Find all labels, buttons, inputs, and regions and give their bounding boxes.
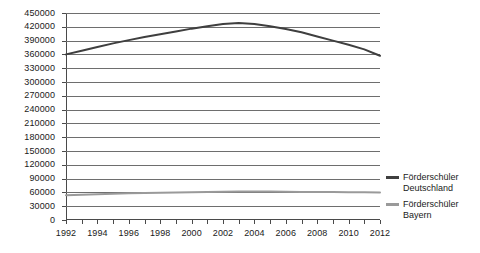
y-axis-tick-label: 390000 bbox=[24, 36, 55, 45]
legend-swatch-bayern bbox=[386, 203, 399, 206]
x-axis: 1992199419961998200020022004200620082010… bbox=[66, 220, 380, 250]
legend-item-bayern: Förderschüler Bayern bbox=[386, 199, 480, 221]
x-axis-tick bbox=[207, 220, 208, 224]
x-axis-tick bbox=[192, 220, 193, 224]
x-axis-tick-label: 2000 bbox=[181, 228, 201, 238]
x-axis-tick-label: 2012 bbox=[370, 228, 390, 238]
y-axis-tick-label: 0 bbox=[50, 216, 55, 225]
x-axis-tick bbox=[317, 220, 318, 224]
x-axis-tick bbox=[129, 220, 130, 224]
legend-label-bayern-line2: Bayern bbox=[403, 210, 432, 220]
x-axis-tick bbox=[239, 220, 240, 224]
x-axis-tick bbox=[286, 220, 287, 224]
legend-item-deutschland: Förderschüler Deutschland bbox=[386, 172, 480, 194]
x-axis-tick-label: 2002 bbox=[213, 228, 233, 238]
x-axis-tick-label: 2006 bbox=[276, 228, 296, 238]
x-axis-tick-label: 1992 bbox=[56, 228, 76, 238]
x-axis-tick-label: 2008 bbox=[307, 228, 327, 238]
x-axis-tick-label: 2010 bbox=[338, 228, 358, 238]
x-axis-tick bbox=[333, 220, 334, 224]
y-axis-tick-label: 240000 bbox=[24, 105, 55, 114]
y-axis-tick-label: 300000 bbox=[24, 78, 55, 87]
legend-label-bayern: Förderschüler Bayern bbox=[403, 199, 459, 221]
x-axis-tick bbox=[160, 220, 161, 224]
legend-label-bayern-line1: Förderschüler bbox=[403, 199, 459, 209]
y-axis-tick-label: 180000 bbox=[24, 133, 55, 142]
x-axis-tick bbox=[254, 220, 255, 224]
x-axis-tick bbox=[176, 220, 177, 224]
legend-label-deutschland-line1: Förderschüler bbox=[403, 172, 459, 182]
series-line-deutschland bbox=[66, 23, 380, 56]
x-axis-tick bbox=[380, 220, 381, 224]
x-axis-tick bbox=[97, 220, 98, 224]
y-axis-tick-label: 30000 bbox=[29, 202, 55, 211]
x-axis-tick-label: 1994 bbox=[87, 228, 107, 238]
x-axis-tick-label: 2004 bbox=[244, 228, 264, 238]
x-axis-tick-label: 1998 bbox=[150, 228, 170, 238]
legend-swatch-deutschland bbox=[386, 176, 399, 179]
data-series-lines bbox=[66, 13, 380, 220]
y-axis-labels: 4500004200003900003600003300003000002700… bbox=[0, 0, 62, 253]
x-axis-tick bbox=[113, 220, 114, 224]
y-axis-tick-label: 420000 bbox=[24, 22, 55, 31]
y-axis-tick-label: 450000 bbox=[24, 9, 55, 18]
x-axis-tick-label: 1996 bbox=[119, 228, 139, 238]
y-axis-tick-label: 150000 bbox=[24, 147, 55, 156]
y-axis-tick-label: 90000 bbox=[29, 174, 55, 183]
chart-container: 4500004200003900003600003300003000002700… bbox=[0, 0, 480, 253]
plot-area bbox=[66, 13, 380, 220]
x-axis-tick bbox=[82, 220, 83, 224]
legend-label-deutschland: Förderschüler Deutschland bbox=[403, 172, 459, 194]
y-axis-tick-label: 210000 bbox=[24, 119, 55, 128]
x-axis-tick bbox=[270, 220, 271, 224]
x-axis-tick bbox=[66, 220, 67, 224]
series-line-bayern bbox=[66, 191, 380, 195]
chart-legend: Förderschüler Deutschland Förderschüler … bbox=[386, 172, 480, 226]
y-axis-tick-label: 270000 bbox=[24, 91, 55, 100]
x-axis-tick bbox=[364, 220, 365, 224]
x-axis-tick bbox=[223, 220, 224, 224]
y-axis-tick-label: 330000 bbox=[24, 64, 55, 73]
x-axis-tick bbox=[349, 220, 350, 224]
y-axis-tick-label: 360000 bbox=[24, 50, 55, 59]
x-axis-tick bbox=[145, 220, 146, 224]
x-axis-tick bbox=[302, 220, 303, 224]
legend-label-deutschland-line2: Deutschland bbox=[403, 183, 453, 193]
y-axis-tick-label: 60000 bbox=[29, 188, 55, 197]
y-axis-tick-label: 120000 bbox=[24, 160, 55, 169]
